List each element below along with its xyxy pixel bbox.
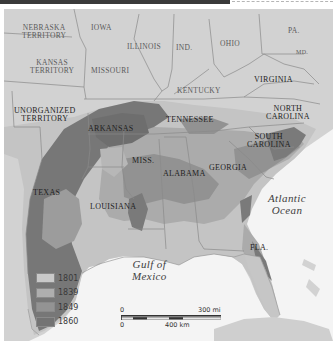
label-kansas-territory: KANSASTERRITORY — [30, 59, 74, 75]
label-ohio: OHIO — [220, 40, 240, 48]
label-atlantic-ocean: AtlanticOcean — [268, 192, 306, 216]
label-arkansas: ARKANSAS — [88, 125, 134, 133]
legend-item-1860: 1860 — [36, 315, 78, 330]
scale-zero-km: 0 — [120, 321, 124, 329]
label-iowa: IOWA — [91, 24, 112, 32]
label-kentucky: KENTUCKY — [177, 87, 221, 95]
label-illinois: ILLINOIS — [127, 43, 161, 51]
label-miss: MISS. — [132, 157, 154, 165]
label-louisiana: LOUISIANA — [90, 203, 136, 211]
label-nebraska-territory: NEBRASKATERRITORY — [22, 24, 66, 40]
legend-label: 1801 — [58, 274, 78, 283]
scale-300-mi: 300 mi — [198, 306, 221, 314]
label-gulf-of-mexico: Gulf ofMexico — [132, 258, 167, 282]
scale-bar-graphic — [121, 315, 221, 320]
label-virginia: VIRGINIA — [254, 76, 293, 84]
label-md: MD. — [296, 48, 308, 56]
header-dashed-rule — [232, 1, 333, 2]
label-south-carolina: SOUTHCAROLINA — [247, 133, 291, 149]
label-texas: TEXAS — [33, 189, 60, 197]
scale-400-km: 400 km — [165, 321, 190, 329]
legend-label: 1860 — [58, 317, 78, 326]
header-bar — [0, 0, 230, 4]
legend-swatch — [36, 317, 55, 327]
legend-item-1801: 1801 — [36, 271, 78, 286]
legend-item-1839: 1839 — [36, 286, 78, 301]
legend-item-1849: 1849 — [36, 300, 78, 315]
scale-bar: 0 300 mi 0 400 km — [120, 306, 224, 330]
label-georgia: GEORGIA — [209, 164, 247, 172]
scale-zero-mi: 0 — [120, 306, 124, 314]
label-fla: FLA. — [250, 244, 268, 252]
legend: 1801 1839 1849 1860 — [36, 271, 78, 329]
legend-swatch — [36, 288, 55, 298]
label-tennessee: TENNESSEE — [166, 116, 214, 124]
label-unorganized-territory: UNORGANIZEDTERRITORY — [14, 107, 76, 123]
label-ind: IND. — [176, 44, 192, 52]
label-alabama: ALABAMA — [163, 170, 206, 178]
legend-swatch — [36, 273, 55, 283]
legend-swatch — [36, 302, 55, 312]
label-pa: PA. — [288, 27, 300, 35]
legend-label: 1849 — [58, 303, 78, 312]
label-north-carolina: NORTHCAROLINA — [266, 105, 310, 121]
legend-label: 1839 — [58, 288, 78, 297]
label-missouri: MISSOURI — [91, 67, 129, 75]
